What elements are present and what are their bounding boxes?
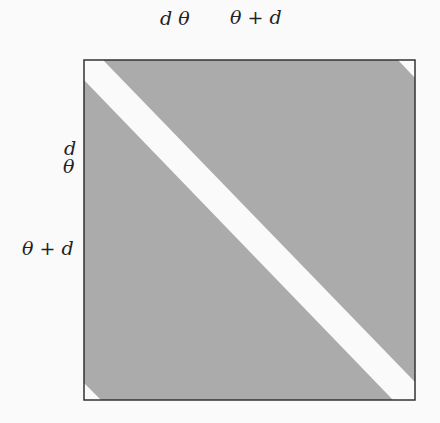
top-label-theta-plus-d: θ + d <box>230 8 282 27</box>
left-label-theta-plus-d: θ + d <box>22 239 74 258</box>
top-label-d-theta: d θ <box>160 9 190 28</box>
diagram-figure <box>0 0 440 423</box>
left-label-theta: θ <box>63 157 74 176</box>
